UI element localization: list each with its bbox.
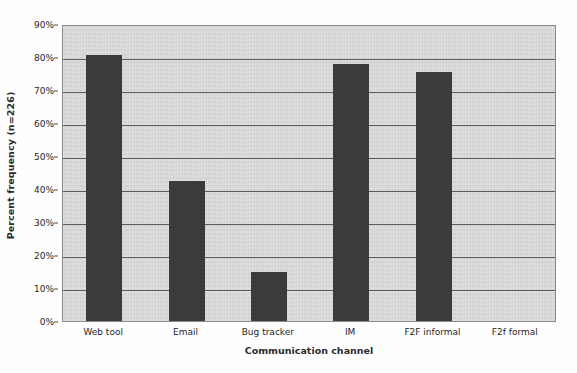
y-axis-tick-label: 90%: [34, 20, 54, 30]
y-axis-tick-mark: [54, 190, 58, 191]
y-axis-tick-mark: [54, 91, 58, 92]
y-axis-title-label: Percent frequency (n=226): [6, 91, 17, 239]
x-axis-tick-label: IM: [345, 327, 355, 337]
x-axis-tick-labels: Web toolEmailBug trackerIMF2F informalF2…: [62, 327, 556, 343]
y-axis-tick-mark: [54, 58, 58, 59]
y-axis-tick-mark: [54, 322, 58, 323]
y-axis-tick-mark: [54, 157, 58, 158]
x-axis-tick-label: F2F informal: [404, 327, 460, 337]
x-axis-tick-label: Email: [173, 327, 198, 337]
x-axis-tick-mark: [392, 321, 393, 322]
y-axis-title: Percent frequency (n=226): [0, 0, 22, 330]
y-axis-tick-label: 60%: [34, 119, 54, 129]
y-axis-tick-label: 30%: [34, 218, 54, 228]
y-axis-tick-label: 70%: [34, 86, 54, 96]
bars-layer: [63, 26, 555, 321]
bar: [333, 64, 369, 321]
x-axis-tick-label: Bug tracker: [242, 327, 294, 337]
y-axis-tick-label: 50%: [34, 152, 54, 162]
x-axis-tick-label: F2f formal: [492, 327, 538, 337]
bar: [416, 72, 452, 321]
y-axis-tick-mark: [54, 124, 58, 125]
y-axis-tick-label: 10%: [34, 284, 54, 294]
bar-chart-figure: Percent frequency (n=226) 0%10%20%30%40%…: [0, 0, 577, 373]
y-axis-tick-label: 20%: [34, 251, 54, 261]
y-axis-tick-labels: 0%10%20%30%40%50%60%70%80%90%: [20, 25, 58, 322]
y-axis-tick-label: 80%: [34, 53, 54, 63]
bar: [169, 181, 205, 321]
bar: [251, 272, 287, 322]
y-axis-tick-mark: [54, 289, 58, 290]
plot-area: [62, 25, 556, 322]
x-axis-tick-mark: [475, 321, 476, 322]
x-axis-tick-mark: [310, 321, 311, 322]
x-axis-tick-mark: [145, 321, 146, 322]
x-axis-tick-label: Web tool: [83, 327, 123, 337]
x-axis-tick-mark: [228, 321, 229, 322]
y-axis-tick-mark: [54, 25, 58, 26]
x-axis-title: Communication channel: [62, 345, 556, 356]
bar: [86, 55, 122, 321]
y-axis-tick-mark: [54, 256, 58, 257]
y-axis-tick-mark: [54, 223, 58, 224]
y-axis-tick-label: 0%: [40, 317, 54, 327]
y-axis-tick-label: 40%: [34, 185, 54, 195]
